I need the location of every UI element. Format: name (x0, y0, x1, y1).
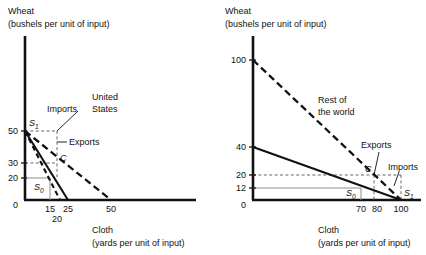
us-region-label-line2: States (92, 104, 118, 114)
us-x-axis-title-line2: (yards per unit of input) (92, 238, 185, 248)
row-ytick-label-100: 100 (231, 55, 246, 65)
panel-rest-of-the-world: Wheat (bushels per unit of input) 100 (213, 0, 426, 255)
us-point-s0-sub: 0 (40, 187, 44, 194)
us-xtick-label-20: 20 (52, 214, 62, 224)
row-y-axis-title-line2: (bushels per unit of input) (225, 19, 327, 29)
row-imports-leader (394, 172, 399, 186)
row-exports-leader (374, 152, 379, 175)
us-y-axis-title-line2: (bushels per unit of input) (8, 19, 110, 29)
us-point-s1-sub: 1 (35, 123, 39, 130)
row-exports-label: Exports (361, 140, 392, 150)
us-ytick-label-0: 0 (13, 200, 18, 210)
us-imports-leader (57, 111, 78, 131)
row-xtick-label-70: 70 (356, 204, 366, 214)
row-x-axis-title-line1: Cloth (318, 225, 339, 235)
us-ytick-label-30: 30 (8, 158, 18, 168)
row-ytick-label-0: 0 (241, 200, 246, 210)
row-imports-label: Imports (388, 162, 419, 172)
us-y-axis-title-line1: Wheat (8, 6, 35, 16)
row-point-s1-sub: 1 (410, 193, 414, 200)
row-ytick-label-40: 40 (236, 142, 246, 152)
two-panel-trade-diagram: Wheat (bushels per unit of input) (0, 0, 426, 255)
row-region-label-line1: Rest of (318, 95, 347, 105)
us-point-c-label: C (60, 153, 67, 163)
row-point-c-label: C (365, 164, 372, 174)
row-point-s0-sub: 0 (352, 193, 356, 200)
row-y-axis-title-line1: Wheat (225, 6, 252, 16)
us-ytick-label-50: 50 (8, 126, 18, 136)
us-region-label-line1: United (92, 92, 118, 102)
us-xtick-label-15: 15 (45, 204, 55, 214)
row-x-axis-title-line2: (yards per unit of input) (318, 238, 411, 248)
us-imports-label: Imports (47, 104, 78, 114)
row-region-label-line2: the world (318, 107, 355, 117)
row-chart-svg: Wheat (bushels per unit of input) 100 (213, 0, 426, 255)
us-exports-label: Exports (69, 137, 100, 147)
row-trade-line (253, 60, 401, 200)
us-chart-svg: Wheat (bushels per unit of input) (0, 0, 213, 255)
us-ppf-line (25, 131, 68, 200)
us-x-axis-title-line1: Cloth (92, 225, 113, 235)
us-xtick-label-25: 25 (63, 204, 73, 214)
us-ytick-label-20: 20 (8, 173, 18, 183)
row-xtick-label-80: 80 (372, 204, 382, 214)
panel-united-states: Wheat (bushels per unit of input) (0, 0, 213, 255)
row-xtick-label-100: 100 (393, 204, 408, 214)
row-ytick-label-20: 20 (236, 170, 246, 180)
us-xtick-label-50: 50 (106, 204, 116, 214)
row-ytick-label-12: 12 (236, 183, 246, 193)
